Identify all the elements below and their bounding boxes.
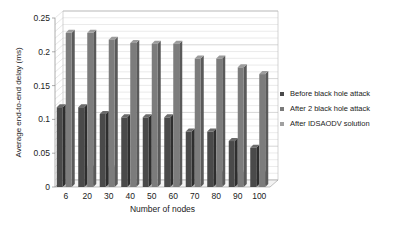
bar-after-attack	[87, 30, 96, 187]
legend-label: Before black hole attack	[290, 89, 370, 98]
x-tick-label: 30	[104, 191, 114, 201]
bar-after-attack	[173, 41, 182, 187]
bar-before-attack	[143, 114, 152, 187]
bar-after-attack	[216, 56, 225, 187]
bar-after-attack	[130, 40, 139, 187]
chart-legend: Before black hole attack After 2 black h…	[280, 86, 370, 131]
legend-item-before: Before black hole attack	[280, 86, 370, 101]
x-tick-label: 60	[169, 191, 179, 201]
y-tick-label: 0.2	[38, 47, 50, 57]
x-tick-label: 90	[233, 191, 243, 201]
bar-after-attack	[109, 37, 118, 187]
bar-before-attack	[250, 145, 259, 187]
bar-before-attack	[229, 138, 238, 187]
x-tick-label: 20	[83, 191, 93, 201]
legend-swatch-icon	[280, 107, 284, 111]
y-tick-label: 0	[45, 182, 50, 192]
legend-label: After IDSAODV solution	[290, 119, 370, 128]
legend-swatch-icon	[280, 122, 284, 126]
x-tick-label: 70	[190, 191, 200, 201]
x-axis-title: Number of nodes	[130, 204, 195, 214]
y-axis-title: Average end-to-end delay (ms)	[14, 47, 23, 157]
x-tick-label: 100	[252, 191, 266, 201]
bar-before-attack	[164, 114, 173, 187]
legend-item-after-idsaodv: After IDSAODV solution	[280, 116, 370, 131]
bar-before-attack	[57, 104, 66, 187]
bar-after-attack	[195, 56, 204, 187]
bar-after-attack	[66, 30, 75, 187]
bar-after-attack	[238, 64, 247, 187]
legend-item-after-attack: After 2 black hole attack	[280, 101, 370, 116]
y-tick-label: 0.05	[33, 148, 50, 158]
bar-before-attack	[78, 104, 87, 187]
chart-container: 00.050.10.150.20.2562030405060708090100N…	[0, 0, 394, 225]
y-tick-label: 0.25	[33, 13, 50, 23]
y-tick-label: 0.1	[38, 114, 50, 124]
bar-after-attack	[259, 71, 268, 187]
legend-swatch-icon	[280, 92, 284, 96]
bar-after-attack	[152, 41, 161, 187]
legend-label: After 2 black hole attack	[290, 104, 370, 113]
x-tick-label: 40	[126, 191, 136, 201]
y-tick-label: 0.15	[33, 81, 50, 91]
bar-before-attack	[186, 129, 195, 187]
bar-before-attack	[121, 114, 130, 187]
x-tick-label: 50	[147, 191, 157, 201]
x-tick-label: 6	[63, 191, 68, 201]
x-tick-label: 80	[212, 191, 222, 201]
bar-before-attack	[100, 111, 109, 187]
bar-before-attack	[207, 129, 216, 187]
